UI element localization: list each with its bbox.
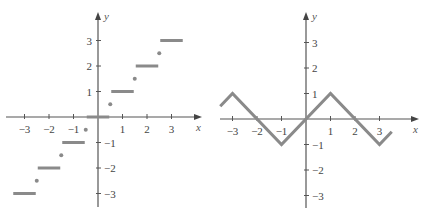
chart-canvas: yx−3−2−1123−3−2−1123yx−3−2−1123−3−2−1123	[0, 0, 433, 220]
midpoint-dot	[108, 102, 112, 106]
midpoint-dot	[133, 77, 137, 81]
x-tick-label: 3	[377, 125, 383, 137]
y-tick-label: 2	[87, 60, 93, 72]
midpoint-dot	[59, 153, 63, 157]
x-axis-arrow-icon	[411, 116, 419, 122]
x-tick-label: 1	[120, 123, 126, 135]
x-axis-label: x	[412, 123, 418, 135]
x-tick-label: 2	[352, 125, 358, 137]
x-tick-label: 1	[328, 125, 334, 137]
x-tick-label: −1	[276, 125, 288, 137]
y-tick-label: 3	[87, 35, 93, 47]
y-axis-arrow-icon	[303, 12, 309, 20]
y-tick-label: 2	[312, 62, 318, 74]
x-tick-label: 3	[169, 123, 175, 135]
x-axis-arrow-icon	[194, 114, 202, 120]
x-tick-label: −3	[227, 125, 239, 137]
y-tick-label: 1	[312, 88, 318, 100]
y-axis-label: y	[103, 10, 109, 22]
y-tick-label: −1	[104, 137, 116, 149]
y-tick-label: −3	[312, 190, 324, 202]
midpoint-dot	[84, 128, 88, 132]
y-tick-label: −3	[104, 188, 116, 200]
midpoint-dot	[157, 51, 161, 55]
y-tick-label: 3	[312, 37, 318, 49]
y-axis-arrow-icon	[95, 12, 101, 20]
x-tick-label: −2	[251, 125, 263, 137]
y-tick-label: −1	[312, 139, 324, 151]
x-tick-label: −1	[68, 123, 80, 135]
y-tick-label: −2	[312, 164, 324, 176]
x-tick-label: 2	[144, 123, 150, 135]
y-tick-label: 1	[87, 86, 93, 98]
x-axis-label: x	[195, 121, 201, 133]
y-tick-label: −2	[104, 162, 116, 174]
midpoint-dot	[35, 179, 39, 183]
x-tick-label: −3	[19, 123, 31, 135]
x-tick-label: −2	[43, 123, 55, 135]
y-axis-label: y	[311, 10, 317, 22]
